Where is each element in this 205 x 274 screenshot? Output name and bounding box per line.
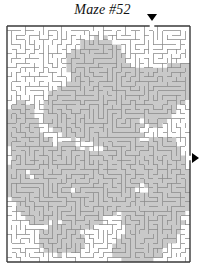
maze-page: Maze #52 bbox=[0, 0, 205, 274]
exit-marker-triangle bbox=[192, 153, 199, 163]
maze-area bbox=[0, 0, 205, 274]
entrance-marker-triangle bbox=[147, 14, 157, 21]
maze-grid[interactable] bbox=[0, 0, 205, 274]
